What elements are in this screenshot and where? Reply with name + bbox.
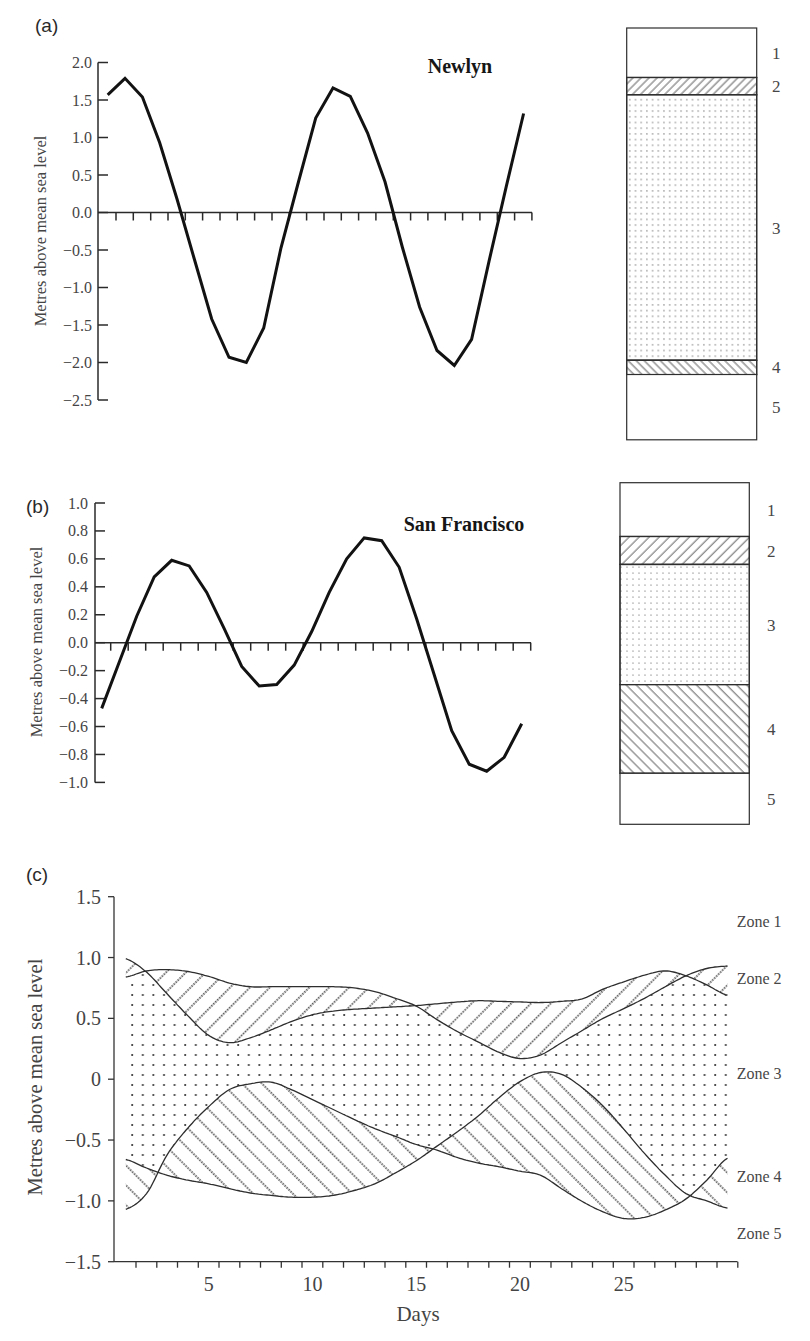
zone-number-label: 4 <box>772 358 781 377</box>
y-tick-label: −0.2 <box>59 662 88 679</box>
zone-number-label: 2 <box>772 77 781 96</box>
zone-1-band <box>620 483 749 537</box>
y-tick-label: 1.5 <box>72 92 92 109</box>
zonation-plot-area: 1.51.00.50−0.5−1.0−1.5510152025 <box>65 886 738 1295</box>
y-tick-label: 1.0 <box>72 129 92 146</box>
zone-3-pattern <box>627 95 757 361</box>
zone-5-band <box>627 375 757 440</box>
zone-number-label: 1 <box>767 501 776 520</box>
x-axis-label: Days <box>396 1302 439 1326</box>
y-tick-label: −0.8 <box>59 746 88 763</box>
tide-zonation-figure: (a) Newlyn Metres above mean sea level 1… <box>0 0 810 1341</box>
x-tick-label: 25 <box>614 1273 634 1295</box>
zone-number-label: 4 <box>767 720 776 739</box>
zone-number-label: 5 <box>767 790 776 809</box>
x-tick-label: 15 <box>406 1273 426 1295</box>
zone-1-band <box>627 28 757 78</box>
y-tick-label: 1.0 <box>76 947 101 969</box>
y-tick-label: −2.0 <box>63 354 92 371</box>
zone-number-label: 1 <box>772 44 781 63</box>
chart-title-newlyn: Newlyn <box>428 55 492 78</box>
y-tick-label: −1.0 <box>65 1190 101 1212</box>
y-tick-label: −0.6 <box>59 718 88 735</box>
zone-3-pattern <box>620 565 749 685</box>
x-tick-label: 5 <box>204 1273 214 1295</box>
y-tick-label: 0.2 <box>68 606 88 623</box>
panel-b-san-francisco: (b) San Francisco Metres above mean sea … <box>26 483 776 825</box>
y-tick-label: 0.4 <box>68 578 88 595</box>
panel-c-zonation: (c) Metres above mean sea level 1.51.00.… <box>24 864 782 1326</box>
y-tick-label: 0.5 <box>76 1007 101 1029</box>
zone-2-pattern <box>627 78 757 95</box>
zone-4-pattern <box>627 360 757 374</box>
y-tick-label: −1.5 <box>63 317 92 334</box>
y-axis-label: Metres above mean sea level <box>31 135 50 326</box>
y-tick-label: −1.0 <box>59 774 88 791</box>
y-tick-label: 2.0 <box>72 54 92 71</box>
figure-canvas: (a) Newlyn Metres above mean sea level 1… <box>0 0 810 1341</box>
zone-number-label: 3 <box>772 219 781 238</box>
y-axis-label: Metres above mean sea level <box>24 958 46 1195</box>
y-tick-label: 0.6 <box>68 550 88 567</box>
y-axis-label: Metres above mean sea level <box>27 546 46 737</box>
y-tick-label: 0.0 <box>72 204 92 221</box>
panel-a-newlyn: (a) Newlyn Metres above mean sea level 1… <box>31 15 781 440</box>
panel-c-label: (c) <box>26 864 48 885</box>
y-tick-label: −1.5 <box>65 1251 101 1273</box>
x-tick-label: 10 <box>303 1273 323 1295</box>
zone-number-label: 3 <box>767 616 776 635</box>
zone-5-band <box>620 773 749 824</box>
y-tick-label: 0.0 <box>68 634 88 651</box>
zone-2-pattern <box>620 537 749 565</box>
x-tick-label: 20 <box>510 1273 530 1295</box>
zone-number-label: 2 <box>767 542 776 561</box>
tide-curve <box>108 78 524 365</box>
y-tick-label: 0.8 <box>68 522 88 539</box>
zone-3-label: Zone 3 <box>737 1065 782 1082</box>
y-tick-label: −0.5 <box>65 1129 101 1151</box>
panel-b-label: (b) <box>26 496 49 517</box>
y-tick-label: 1.0 <box>68 495 88 512</box>
zone-1-label: Zone 1 <box>737 913 782 930</box>
chart-title-san-francisco: San Francisco <box>404 513 525 535</box>
panel-a-label: (a) <box>35 15 58 36</box>
tide-curve <box>102 538 522 771</box>
zone-4-pattern <box>620 685 749 774</box>
zone-4-label: Zone 4 <box>737 1168 782 1185</box>
y-tick-label: −1.0 <box>63 279 92 296</box>
y-tick-label: 0 <box>91 1068 101 1090</box>
y-tick-label: −0.4 <box>59 690 88 707</box>
y-tick-label: −2.5 <box>63 392 92 409</box>
y-tick-label: 0.5 <box>72 167 92 184</box>
zone-5-label: Zone 5 <box>737 1225 782 1242</box>
zone-number-label: 5 <box>772 398 781 417</box>
y-tick-label: −0.5 <box>63 242 92 259</box>
y-tick-label: 1.5 <box>76 886 101 908</box>
newlyn-plot-area: 123452.01.51.00.50.0−0.5−1.0−1.5−2.0−2.5 <box>63 28 781 440</box>
zone-2-label: Zone 2 <box>737 970 782 987</box>
